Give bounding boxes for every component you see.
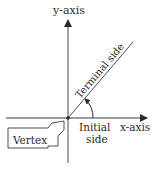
vertex-point	[66, 116, 70, 120]
angle-arc-arrow-icon	[85, 99, 93, 118]
y-axis-label: y-axis	[52, 4, 85, 17]
initial-side-label-line1: Initial	[79, 121, 111, 133]
angle-diagram: y-axis x-axis Terminal side Initial side…	[0, 0, 156, 176]
x-axis-label: x-axis	[120, 121, 150, 133]
terminal-side-label: Terminal side	[73, 41, 126, 100]
terminal-side-ray	[68, 42, 133, 118]
initial-side-label-line2: side	[86, 133, 108, 145]
vertex-label: Vertex	[12, 134, 47, 146]
